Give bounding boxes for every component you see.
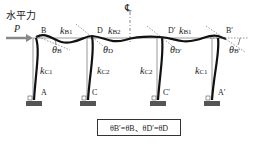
centerline-symbol: ℄ — [125, 3, 131, 13]
deformed-beam — [36, 35, 226, 42]
beam-stiffness-2: kB2 — [108, 26, 121, 36]
force-symbol: P — [14, 24, 20, 34]
force-label: 水平力 — [6, 11, 36, 21]
node-c: C — [92, 89, 97, 97]
node-b: B — [41, 27, 46, 35]
node-b-prime: B′ — [226, 27, 233, 35]
force-arrow-icon — [6, 34, 33, 42]
column-stiffness-3: kC2 — [140, 66, 153, 76]
column-stiffness-4: kC1 — [195, 66, 208, 76]
rotation-d-prime: θD′ — [170, 45, 182, 55]
rotation-equality-formula: θB′=θB、θD′=θD — [97, 119, 181, 136]
node-a-prime: A′ — [218, 89, 226, 97]
node-d-prime: D′ — [168, 27, 176, 35]
rotation-b: θB — [52, 45, 62, 55]
rotation-d: θD — [103, 45, 113, 55]
column-stiffness-2: kC2 — [97, 66, 110, 76]
fixed-supports — [26, 96, 220, 106]
column-stiffness-1: kC1 — [40, 66, 53, 76]
node-d: D — [97, 27, 103, 35]
beam-stiffness-3: kB1 — [179, 26, 192, 36]
beam-stiffness-1: kB1 — [60, 26, 73, 36]
rotation-b-prime: θB′ — [229, 45, 240, 55]
node-c-prime: C′ — [163, 89, 170, 97]
node-a: A — [41, 89, 47, 97]
